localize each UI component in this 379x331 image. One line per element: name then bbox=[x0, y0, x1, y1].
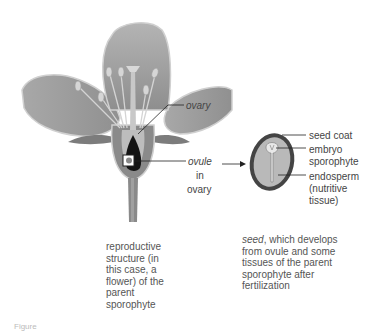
arrow-head bbox=[240, 161, 246, 167]
ovule-label-ovary: ovary bbox=[187, 184, 211, 195]
seed-desc-line: from ovule and some bbox=[242, 246, 338, 258]
flower-desc-line: structure (in bbox=[106, 253, 164, 265]
seed-description: seed, which develops from ovule and some… bbox=[242, 234, 338, 292]
endosperm-label-2: (nutritive bbox=[309, 183, 347, 194]
embryo-label: embryo bbox=[309, 144, 342, 155]
seed-desc-line: tissues of the parent bbox=[242, 257, 338, 269]
ovule-label-in: in bbox=[196, 170, 204, 181]
seed-desc-line: sporophyte after bbox=[242, 269, 338, 281]
flower-desc-line: flower) of the bbox=[106, 276, 164, 288]
seed-desc-line: seed, which develops bbox=[242, 234, 338, 246]
endosperm-label: endosperm bbox=[309, 171, 359, 182]
flower-description: reproductive structure (in this case, a … bbox=[106, 241, 164, 310]
seed-illustration bbox=[244, 129, 299, 195]
endosperm-label-3: tissue) bbox=[309, 195, 338, 206]
seed-desc-text: , which develops bbox=[264, 234, 338, 245]
figure-caption: Figure bbox=[14, 322, 37, 331]
ovule-label: ovule bbox=[188, 156, 212, 167]
seed-desc-line: fertilization bbox=[242, 280, 338, 292]
flower-desc-line: parent bbox=[106, 287, 164, 299]
seed-coat-label: seed coat bbox=[309, 130, 352, 141]
flower-desc-line: reproductive bbox=[106, 241, 164, 253]
seed-term: seed bbox=[242, 234, 264, 245]
flower-desc-line: sporophyte bbox=[106, 299, 164, 311]
ovary-label: ovary bbox=[186, 100, 210, 111]
flower-desc-line: this case, a bbox=[106, 264, 164, 276]
embryo-label-2: sporophyte bbox=[309, 156, 358, 167]
